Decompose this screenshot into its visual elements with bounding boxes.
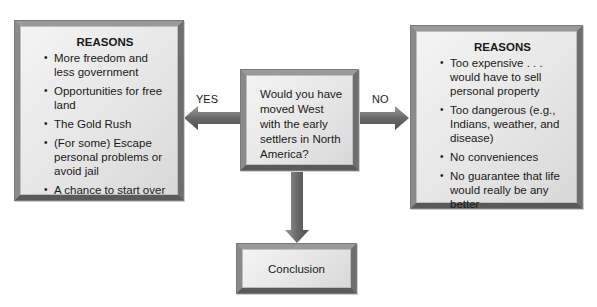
list-item: More freedom and less government — [54, 51, 170, 79]
list-item: A chance to start over — [54, 183, 170, 197]
yes-arrow — [184, 106, 240, 130]
list-item: No conveniences — [450, 150, 569, 164]
no-arrow — [359, 106, 409, 130]
no-reasons-heading: REASONS — [436, 41, 569, 53]
list-item: Too dangerous (e.g., Indians, weather, a… — [450, 103, 569, 145]
list-item: Opportunities for free land — [54, 84, 170, 112]
conclusion-text: Conclusion — [268, 263, 325, 275]
no-label: NO — [372, 93, 389, 105]
list-item: The Gold Rush — [54, 117, 170, 131]
conclusion-box: Conclusion — [236, 243, 357, 294]
yes-reasons-heading: REASONS — [40, 36, 170, 48]
conclusion-arrow — [285, 171, 309, 243]
question-text: Would you have moved West with the early… — [260, 87, 347, 162]
list-item: No guarantee that life would really be a… — [450, 169, 569, 211]
yes-reasons-box: REASONS More freedom and less government… — [14, 20, 184, 201]
yes-reasons-list: More freedom and less government Opportu… — [40, 51, 170, 197]
yes-label: YES — [196, 93, 218, 105]
no-reasons-list: Too expensive . . . would have to sell p… — [436, 56, 569, 211]
list-item: (For some) Escape personal problems or a… — [54, 136, 170, 178]
question-box: Would you have moved West with the early… — [240, 69, 359, 171]
list-item: Too expensive . . . would have to sell p… — [450, 56, 569, 98]
no-reasons-box: REASONS Too expensive . . . would have t… — [410, 25, 583, 209]
